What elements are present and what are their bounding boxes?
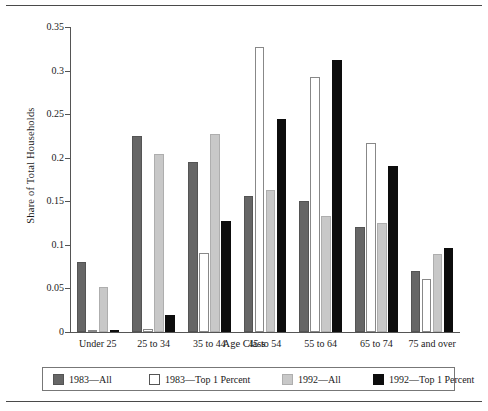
bar	[444, 248, 454, 332]
plot-area: Under 2525 to 3435 to 4445 to 5455 to 64…	[70, 27, 460, 332]
legend-label: 1983—All	[69, 374, 112, 385]
legend-item: 1983—All	[53, 374, 112, 385]
legend-item: 1992—Top 1 Percent	[373, 374, 474, 385]
legend-label: 1992—Top 1 Percent	[389, 374, 474, 385]
legend-swatch-icon	[282, 374, 293, 385]
bar	[433, 254, 443, 332]
legend-swatch-icon	[373, 374, 384, 385]
bar	[411, 271, 421, 332]
y-axis-tick-label: 0	[26, 327, 64, 337]
y-axis-tick-label: 0.1	[26, 240, 64, 250]
y-axis-tick-label: 0.05	[26, 283, 64, 293]
y-axis-tick-label: 0.3	[26, 66, 64, 76]
legend-label: 1983—Top 1 Percent	[165, 374, 250, 385]
y-axis-tick-label: 0.2	[26, 153, 64, 163]
figure: Share of Total Households 00.050.10.150.…	[0, 0, 488, 411]
y-axis-tick-label: 0.25	[26, 109, 64, 119]
y-axis-tick-label: 0.15	[26, 196, 64, 206]
bottom-rule	[6, 401, 482, 402]
legend-item: 1983—Top 1 Percent	[149, 374, 250, 385]
legend-swatch-icon	[53, 374, 64, 385]
legend-label: 1992—All	[298, 374, 341, 385]
bar	[422, 279, 432, 332]
y-axis-tick	[65, 332, 70, 333]
x-axis-line	[70, 332, 460, 333]
x-axis-label: Age Class	[0, 338, 488, 349]
legend: 1983—All1983—Top 1 Percent1992—All1992—T…	[42, 367, 455, 391]
y-axis-tick-label: 0.35	[26, 22, 64, 32]
legend-swatch-icon	[149, 374, 160, 385]
bar-group	[70, 27, 460, 332]
top-rule	[6, 5, 482, 6]
legend-item: 1992—All	[282, 374, 341, 385]
